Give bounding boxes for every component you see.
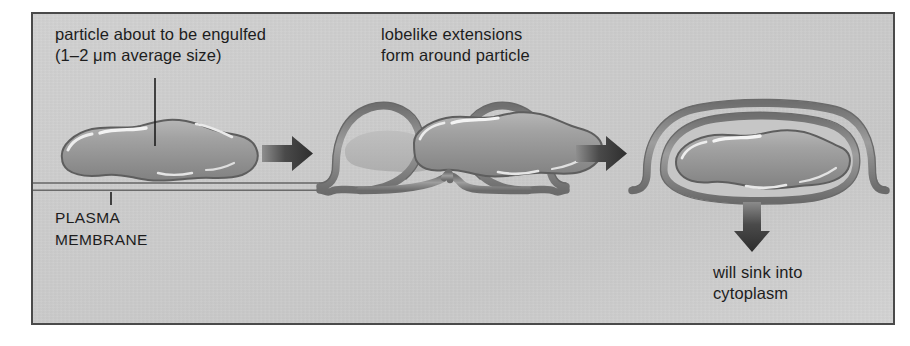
particle-body — [62, 120, 258, 181]
caption-will-sink-into-cytoplasm: will sink into cytoplasm — [713, 262, 802, 304]
membrane-notch — [444, 172, 450, 180]
particle-body-stage3 — [676, 130, 850, 188]
stage-1-group — [33, 78, 320, 205]
arrow-1 — [262, 136, 313, 171]
arrow-3 — [734, 202, 770, 252]
caption-particle: particle about to be engulfed (1–2 μm av… — [55, 24, 266, 66]
phagocytosis-diagram: particle about to be engulfed (1–2 μm av… — [0, 0, 910, 346]
caption-lobelike-extensions: lobelike extensions form around particle — [381, 24, 530, 66]
particle-body-stage2 — [414, 112, 602, 176]
caption-plasma-membrane: PLASMA MEMBRANE — [55, 207, 148, 251]
stage-2-group — [320, 102, 602, 192]
stage-3-group — [632, 99, 893, 204]
